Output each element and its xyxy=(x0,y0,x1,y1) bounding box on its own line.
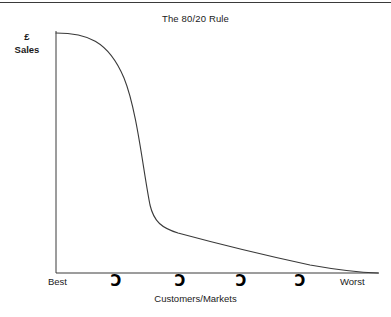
plot-area xyxy=(0,0,391,317)
x-axis-tick-marker-1: Ɔ xyxy=(108,274,124,289)
x-axis-end-label: Worst xyxy=(340,276,365,288)
x-axis-label: Customers/Markets xyxy=(0,293,391,305)
x-axis-start-label: Best xyxy=(48,276,67,288)
x-axis-tick-marker-4: Ɔ xyxy=(292,274,308,289)
chart-figure: The 80/20 Rule £ Sales Best Worst Ɔ Ɔ Ɔ … xyxy=(0,0,391,317)
x-axis-tick-marker-2: Ɔ xyxy=(172,274,188,289)
pareto-sales-curve xyxy=(56,33,378,273)
x-axis-tick-marker-3: Ɔ xyxy=(233,274,249,289)
